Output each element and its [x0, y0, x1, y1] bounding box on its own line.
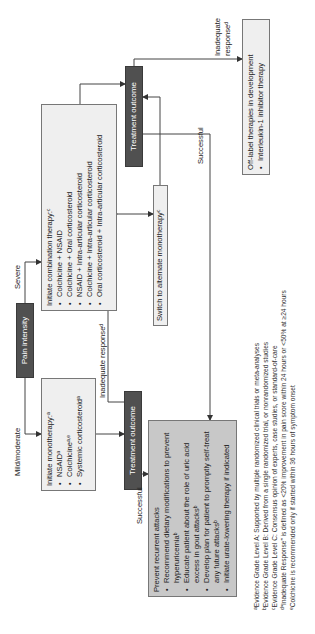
pain-intensity-node: Pain intensity: [16, 303, 34, 378]
monotherapy-box: Initiate monotherapy:a NSAIDa Colchicine…: [41, 378, 96, 491]
prevent-item: Educate patient about the role of uric a…: [182, 425, 202, 592]
footnote: d“Inadequate Response” is defined as <20…: [279, 290, 288, 610]
severe-label: Severe: [13, 265, 22, 289]
treatment-outcome-right: Treatment outcome: [125, 66, 143, 167]
treatment-outcome-left-label: Treatment outcome: [128, 406, 138, 475]
footnote: aEvidence Grade Level A: Supported by mu…: [252, 290, 261, 610]
combination-therapy-box: Initiate combination therapy:c Colchicin…: [41, 104, 117, 311]
footnotes: aEvidence Grade Level A: Supported by mu…: [252, 290, 297, 610]
offlabel-therapies-box: Off-label therapies in development Inter…: [242, 19, 270, 175]
combo-item: Colchicine + Intra-articular corticoster…: [85, 109, 95, 306]
offlabel-item: Interleukin-1 inhibitor therapy: [256, 24, 266, 170]
successful-right-label: Successful: [196, 127, 205, 164]
gout-treatment-flowchart: Pain intensity Mild/moderate Severe Init…: [0, 0, 315, 634]
treatment-outcome-right-label: Treatment outcome: [129, 82, 139, 151]
combo-item: Colchicine + NSAID: [55, 109, 65, 306]
successful-left-label: Successful: [135, 487, 144, 524]
footnote: cEvidence Grade Level C: Consensus opini…: [270, 290, 279, 610]
prevent-recurrent-attacks-box: Prevent recurrent attacks Recommend diet…: [148, 420, 237, 597]
prevent-item: Initiate urate-lowering therapy if indic…: [222, 425, 232, 592]
combination-title: Initiate combination therapy:c: [45, 109, 55, 306]
combo-item: Colchicine + Oral corticosteroid: [65, 109, 75, 306]
mono-item: Systemic corticosteroida: [75, 383, 85, 486]
pain-intensity-label: Pain intensity: [20, 317, 30, 365]
treatment-outcome-left: Treatment outcome: [124, 391, 142, 490]
monotherapy-title: Initiate monotherapy:a: [45, 383, 55, 486]
mono-item: Colchicinea,e: [65, 383, 75, 486]
switch-monotherapy-box: Switch to alternate monotherapyc: [153, 185, 168, 326]
inadequate-response-right-label: Inadequate responsed: [213, 18, 233, 56]
combo-item: NSAID + Intra-articular corticosteroid: [75, 109, 85, 306]
prevent-item: Recommend dietary modifications to preve…: [162, 425, 182, 592]
combo-item: Oral corticosteroid + Intra-articular co…: [95, 109, 105, 306]
footnote: eColchicine is recommended only if start…: [288, 290, 297, 610]
footnote: bEvidence Grade Level B: Derived from a …: [261, 290, 270, 610]
prevent-title: Prevent recurrent attacks: [152, 425, 162, 592]
mild-moderate-label: Mild/moderate: [13, 428, 22, 476]
mono-item: NSAIDa: [55, 383, 65, 486]
offlabel-title: Off-label therapies in development: [246, 24, 256, 170]
inadequate-response-left-label: Inadequate responsed: [98, 324, 107, 398]
prevent-item: Develop plan for patient to promptly sel…: [202, 425, 222, 592]
